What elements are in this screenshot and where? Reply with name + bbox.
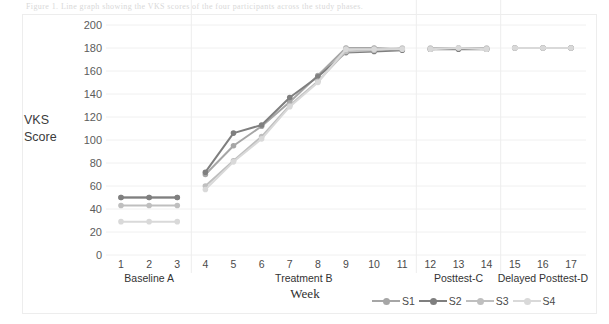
- x-axis-tick-1: 1: [109, 258, 133, 270]
- data-point-S4-week-7: [287, 104, 293, 110]
- y-axis-tick-160: 160: [62, 65, 102, 77]
- x-axis-tick-6: 6: [250, 258, 274, 270]
- legend-label-S2: S2: [449, 295, 462, 307]
- x-axis-tick-14: 14: [475, 258, 499, 270]
- data-point-S2-week-7: [287, 95, 293, 101]
- data-point-S1-week-5: [231, 143, 237, 149]
- legend-item-S2[interactable]: S2: [419, 295, 466, 307]
- legend-marker-S1-icon: [372, 296, 400, 306]
- x-axis-tick-17: 17: [559, 258, 583, 270]
- data-point-S4-week-15: [512, 45, 518, 51]
- data-point-S4-week-8: [315, 80, 321, 86]
- data-point-S4-week-16: [540, 45, 546, 51]
- x-axis-tick-10: 10: [362, 258, 386, 270]
- x-axis-tick-16: 16: [531, 258, 555, 270]
- x-axis-tick-8: 8: [306, 258, 330, 270]
- data-point-S4-week-11: [399, 46, 405, 52]
- data-point-S2-week-1: [118, 195, 124, 201]
- x-axis-title: Week: [265, 286, 345, 302]
- legend-marker-S2-icon: [419, 296, 447, 306]
- series-S2: [118, 45, 574, 200]
- plot-area: [106, 25, 586, 255]
- legend-item-S4[interactable]: S4: [513, 295, 560, 307]
- series-S4: [118, 45, 574, 224]
- legend-label-S4: S4: [543, 295, 556, 307]
- plot-svg: [106, 25, 586, 255]
- phase-label-3: Posttest-C: [434, 272, 483, 284]
- data-point-S4-week-1: [118, 219, 124, 225]
- series-line-S4: [205, 49, 402, 189]
- x-axis-tick-15: 15: [503, 258, 527, 270]
- x-axis-tick-7: 7: [278, 258, 302, 270]
- chart-legend: S1S2S3S4: [372, 294, 559, 308]
- x-axis-tick-2: 2: [137, 258, 161, 270]
- series-S1: [118, 45, 574, 200]
- phase-label-1: Baseline A: [124, 272, 174, 284]
- data-point-S3-week-2: [146, 203, 152, 209]
- legend-marker-S3-icon: [466, 296, 494, 306]
- vks-score-line-chart-figure: Figure 1. Line graph showing the VKS sco…: [0, 0, 609, 324]
- y-axis-tick-200: 200: [62, 19, 102, 31]
- data-point-S2-week-6: [259, 122, 265, 128]
- data-point-S4-week-3: [174, 219, 180, 225]
- data-point-S3-week-3: [174, 203, 180, 209]
- data-point-S4-week-10: [371, 46, 377, 52]
- y-axis-tick-100: 100: [62, 134, 102, 146]
- data-point-S4-week-14: [484, 46, 490, 52]
- data-point-S2-week-4: [203, 169, 209, 175]
- data-point-S4-week-6: [259, 136, 265, 142]
- x-axis-tick-12: 12: [418, 258, 442, 270]
- data-point-S4-week-2: [146, 219, 152, 225]
- x-axis-tick-11: 11: [390, 258, 414, 270]
- phase-label-2: Treatment B: [275, 272, 332, 284]
- data-point-S3-week-1: [118, 203, 124, 209]
- series-line-S2: [205, 50, 402, 172]
- data-point-S4-week-9: [343, 46, 349, 52]
- data-point-S2-week-2: [146, 195, 152, 201]
- y-axis-tick-120: 120: [62, 111, 102, 123]
- legend-item-S1[interactable]: S1: [372, 295, 419, 307]
- legend-label-S3: S3: [496, 295, 509, 307]
- data-point-S4-week-13: [456, 45, 462, 51]
- y-axis-tick-60: 60: [62, 180, 102, 192]
- legend-item-S3[interactable]: S3: [466, 295, 513, 307]
- x-axis-tick-9: 9: [334, 258, 358, 270]
- data-point-S4-week-4: [203, 187, 209, 193]
- x-axis-tick-4: 4: [193, 258, 217, 270]
- phase-label-4: Delayed Posttest-D: [498, 272, 588, 284]
- data-point-S2-week-3: [174, 195, 180, 201]
- data-point-S2-week-5: [231, 130, 237, 136]
- series-line-S1: [205, 48, 402, 175]
- x-axis-tick-5: 5: [222, 258, 246, 270]
- y-axis-tick-80: 80: [62, 157, 102, 169]
- series-S3: [118, 45, 574, 208]
- y-axis-tick-20: 20: [62, 226, 102, 238]
- data-point-S4-week-5: [231, 159, 237, 165]
- y-axis-tick-40: 40: [62, 203, 102, 215]
- x-axis-tick-13: 13: [447, 258, 471, 270]
- legend-marker-S4-icon: [513, 296, 541, 306]
- y-axis-tick-140: 140: [62, 88, 102, 100]
- y-axis-tick-0: 0: [62, 249, 102, 261]
- legend-label-S1: S1: [402, 295, 415, 307]
- data-point-S4-week-17: [568, 45, 574, 51]
- y-axis-tick-180: 180: [62, 42, 102, 54]
- data-series-group: [118, 45, 574, 224]
- data-point-S4-week-12: [428, 46, 434, 52]
- x-axis-tick-3: 3: [165, 258, 189, 270]
